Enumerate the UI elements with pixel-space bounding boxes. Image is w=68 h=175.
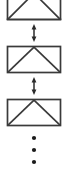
truss-stack-diagram: [0, 0, 68, 175]
ellipsis-dot-3: [32, 160, 36, 164]
ellipsis-dot-1: [32, 136, 36, 140]
ellipsis-dot-2: [32, 148, 36, 152]
figure-root: [0, 0, 68, 175]
